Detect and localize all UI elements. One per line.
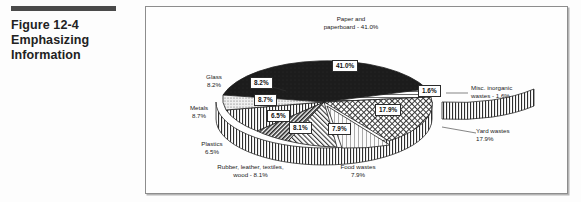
- callout-paper-and-paperboard: Paper and paperboard - 41.0%: [286, 15, 416, 30]
- callout-misc-line-1: Misc. inorganic: [471, 84, 512, 92]
- chart-panel: 41.0% 1.6% 17.9% 7.9% 8.1% 6.5% 8.7% 8.2…: [145, 6, 568, 194]
- value-label-glass: 8.2%: [250, 77, 273, 89]
- callout-food-line-1: Food wastes: [318, 163, 398, 171]
- value-label-metals: 8.7%: [254, 94, 277, 106]
- callout-paper-line-2: paperboard - 41.0%: [286, 23, 416, 31]
- callout-paper-line-1: Paper and: [286, 15, 416, 23]
- value-label-plastics: 6.5%: [267, 110, 290, 122]
- callout-rubber-line-2: wood - 8.1%: [188, 171, 313, 179]
- value-label-paper: 41.0%: [332, 60, 358, 72]
- value-label-food: 7.9%: [328, 123, 351, 135]
- callout-yard-line-2: 17.9%: [476, 135, 510, 143]
- callout-metals: Metals 8.7%: [173, 104, 225, 119]
- callout-misc-inorganic-wastes: Misc. inorganic wastes - 1.6%: [471, 84, 512, 99]
- callout-yard-wastes: Yard wastes 17.9%: [476, 127, 510, 142]
- callout-plastics-line-1: Plastics: [186, 140, 238, 148]
- figure-caption: Figure 12-4 Emphasizing Information: [11, 6, 131, 63]
- figure-page: Figure 12-4 Emphasizing Information: [0, 0, 581, 202]
- callout-metals-line-2: 8.7%: [173, 112, 225, 120]
- callout-plastics-line-2: 6.5%: [186, 148, 238, 156]
- caption-line-3: Information: [11, 48, 131, 63]
- caption-line-2: Emphasizing: [11, 33, 131, 48]
- callout-glass-line-1: Glass: [188, 73, 240, 81]
- callout-glass: Glass 8.2%: [188, 73, 240, 88]
- callout-rubber-line-1: Rubber, leather, textiles,: [188, 163, 313, 171]
- callout-rubber-leather-textiles-wood: Rubber, leather, textiles, wood - 8.1%: [188, 163, 313, 178]
- callout-food-line-2: 7.9%: [318, 171, 398, 179]
- value-label-yard: 17.9%: [375, 104, 401, 116]
- callout-misc-line-2: wastes - 1.6%: [471, 92, 512, 100]
- caption-line-1: Figure 12-4: [11, 18, 131, 33]
- caption-rule: [11, 6, 116, 11]
- callout-glass-line-2: 8.2%: [188, 81, 240, 89]
- callout-plastics: Plastics 6.5%: [186, 140, 238, 155]
- value-label-rubber: 8.1%: [289, 122, 312, 134]
- caption-text: Figure 12-4 Emphasizing Information: [11, 18, 131, 63]
- pie-chart: 41.0% 1.6% 17.9% 7.9% 8.1% 6.5% 8.7% 8.2…: [146, 7, 567, 193]
- callout-food-wastes: Food wastes 7.9%: [318, 163, 398, 178]
- callout-metals-line-1: Metals: [173, 104, 225, 112]
- value-label-misc: 1.6%: [418, 85, 441, 97]
- callout-yard-line-1: Yard wastes: [476, 127, 510, 135]
